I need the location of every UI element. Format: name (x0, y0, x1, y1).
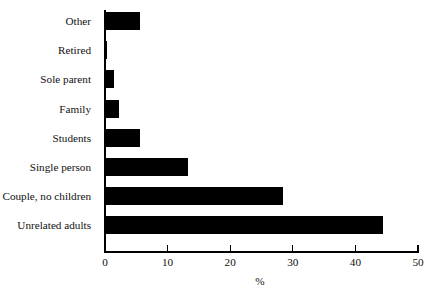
bar-other (105, 12, 140, 30)
bar-retired (105, 41, 107, 59)
bar-couple-no-children (105, 187, 283, 205)
x-axis-title: % (0, 275, 440, 287)
x-tick-label-0: 0 (90, 255, 120, 269)
bar-students (105, 129, 140, 147)
x-tick-0 (104, 245, 105, 251)
x-tick-30 (292, 245, 293, 251)
category-label-unrelated-adults: Unrelated adults (0, 216, 99, 234)
bar-fill (105, 158, 188, 176)
x-tick-label-10: 10 (153, 255, 183, 269)
bar-fill (105, 70, 114, 88)
bar-fill (105, 216, 383, 234)
bar-unrelated-adults (105, 216, 383, 234)
bar-fill (105, 129, 140, 147)
bar-fill (105, 41, 107, 59)
bar-sole-parent (105, 70, 114, 88)
category-label-students: Students (0, 129, 99, 147)
category-label-couple-no-children: Couple, no children (0, 187, 99, 205)
category-label-family: Family (0, 100, 99, 118)
bar-family (105, 100, 119, 118)
bar-fill (105, 100, 119, 118)
x-axis-line (104, 251, 419, 253)
x-tick-label-50: 50 (403, 255, 433, 269)
x-tick-10 (167, 245, 168, 251)
x-tick-label-30: 30 (278, 255, 308, 269)
x-tick-label-20: 20 (215, 255, 245, 269)
category-label-other: Other (0, 12, 99, 30)
x-tick-50 (417, 245, 418, 251)
bar-single-person (105, 158, 188, 176)
x-axis-title-label: % (255, 275, 264, 287)
category-label-single-person: Single person (0, 158, 99, 176)
category-label-retired: Retired (0, 41, 99, 59)
bar-chart: OtherRetiredSole parentFamilyStudentsSin… (0, 0, 440, 300)
bar-fill (105, 12, 140, 30)
x-tick-label-40: 40 (340, 255, 370, 269)
bar-fill (105, 187, 283, 205)
category-label-sole-parent: Sole parent (0, 70, 99, 88)
x-tick-20 (230, 245, 231, 251)
x-tick-40 (355, 245, 356, 251)
